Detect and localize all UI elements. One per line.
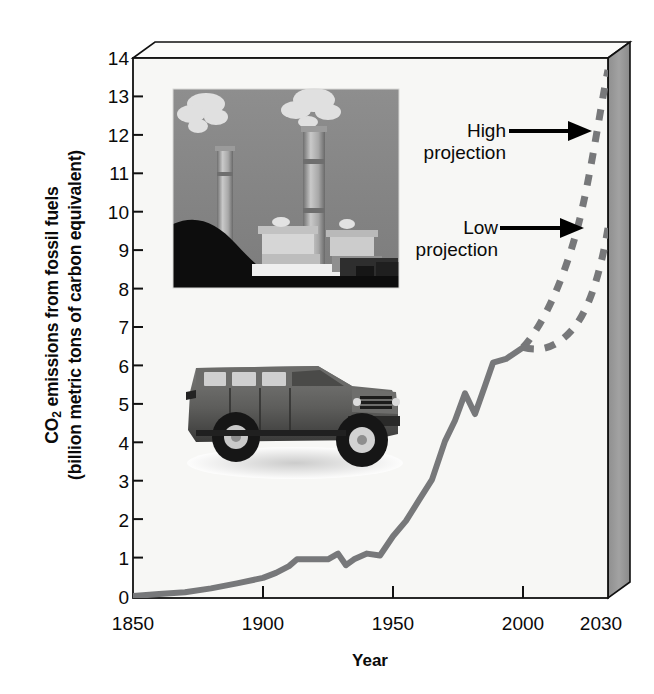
panel-side-face	[608, 42, 630, 598]
high-projection-word2: projection	[388, 142, 506, 164]
low-projection-word1: Low	[380, 217, 498, 239]
low-projection-annotation: Low projection	[380, 217, 498, 261]
co2-emissions-chart: CO2 emissions from fossil fuels (billion…	[0, 0, 654, 694]
low-projection-word2: projection	[380, 239, 498, 261]
high-projection-annotation: High projection	[388, 120, 506, 164]
powerplant-photo	[173, 88, 399, 288]
panel-top-face	[133, 42, 630, 58]
high-projection-word1: High	[388, 120, 506, 142]
chart-canvas	[0, 0, 654, 694]
